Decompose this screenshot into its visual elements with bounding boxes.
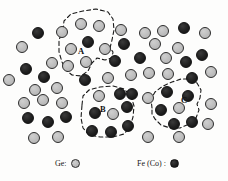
legend-item-fe: Fe (Co) : [137,159,179,168]
fe-circle-icon [170,159,179,168]
cluster-label-b: B [100,105,106,114]
legend-item-ge: Ge: [55,159,80,168]
legend-label-ge: Ge: [55,159,67,168]
cluster-label-c: C [181,96,187,105]
legend: Ge: Fe (Co) : [0,155,228,177]
cluster-label-layer: ABC [0,0,228,181]
atom-distribution-figure: ABC Ge: Fe (Co) : [0,0,228,181]
cluster-label-a: A [78,47,84,56]
legend-label-fe: Fe (Co) : [137,159,166,168]
ge-circle-icon [71,159,80,168]
